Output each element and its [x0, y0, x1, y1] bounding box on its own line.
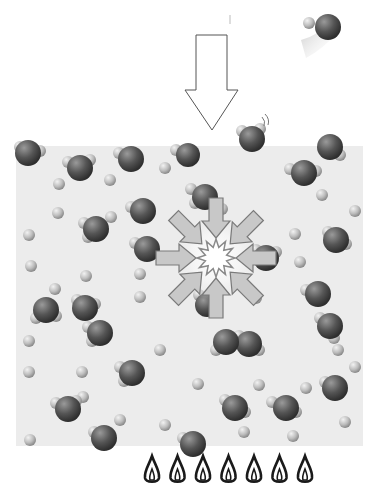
oxygen-atom — [83, 216, 109, 242]
hydrogen-atom — [24, 434, 36, 446]
hydrogen-molecule — [192, 378, 204, 390]
hydrogen-molecule — [289, 228, 301, 240]
hydrogen-molecule — [154, 344, 166, 356]
hydrogen-atom — [192, 378, 204, 390]
hydrogen-atom — [159, 162, 171, 174]
bubble-core — [207, 249, 225, 267]
oxygen-atom — [213, 329, 239, 355]
hydrogen-molecule — [49, 283, 61, 295]
hydrogen-molecule — [23, 335, 35, 347]
oxygen-atom — [91, 425, 117, 451]
hydrogen-atom — [25, 260, 37, 272]
oxygen-atom — [55, 396, 81, 422]
pressure-arrow-icon — [185, 35, 238, 130]
oxygen-atom — [317, 313, 343, 339]
escaping-molecule — [301, 14, 341, 58]
hydrogen-molecule — [253, 379, 265, 391]
hydrogen-atom — [300, 382, 312, 394]
flame-icon — [170, 456, 184, 482]
hydrogen-atom — [349, 205, 361, 217]
flame-icon — [145, 456, 159, 482]
hydrogen-atom — [134, 291, 146, 303]
flame-icon — [247, 456, 261, 482]
hydrogen-atom — [104, 174, 116, 186]
oxygen-atom — [118, 146, 144, 172]
hydrogen-atom — [23, 335, 35, 347]
burner-flames — [145, 456, 312, 482]
hydrogen-molecule — [159, 162, 171, 174]
hydrogen-atom — [339, 416, 351, 428]
hydrogen-atom — [53, 178, 65, 190]
oxygen-atom — [176, 143, 200, 167]
hydrogen-atom — [49, 283, 61, 295]
hydrogen-molecule — [53, 178, 65, 190]
flame-icon — [272, 456, 286, 482]
oxygen-atom — [322, 375, 348, 401]
hydrogen-molecule — [52, 207, 64, 219]
hydrogen-molecule — [23, 366, 35, 378]
oxygen-atom — [119, 360, 145, 386]
hydrogen-molecule — [114, 414, 126, 426]
oxygen-atom — [130, 198, 156, 224]
oxygen-atom — [87, 320, 113, 346]
hydrogen-atom — [114, 414, 126, 426]
oxygen-atom — [305, 281, 331, 307]
flame-icon — [196, 456, 210, 482]
hydrogen-atom — [253, 379, 265, 391]
hydrogen-atom — [289, 228, 301, 240]
hydrogen-atom — [23, 366, 35, 378]
hydrogen-molecule — [80, 270, 92, 282]
hydrogen-molecule — [159, 419, 171, 431]
hydrogen-molecule — [287, 430, 299, 442]
hydrogen-atom — [76, 366, 88, 378]
flame-icon — [298, 456, 312, 482]
water-molecule — [88, 425, 117, 451]
hydrogen-molecule — [134, 291, 146, 303]
hydrogen-molecule — [238, 426, 250, 438]
oxygen-atom — [33, 297, 59, 323]
oxygen-atom — [180, 431, 206, 457]
hydrogen-molecule — [23, 229, 35, 241]
hydrogen-atom — [349, 361, 361, 373]
hydrogen-atom — [52, 207, 64, 219]
hydrogen-molecule — [76, 366, 88, 378]
hydrogen-molecule — [134, 268, 146, 280]
oxygen-atom — [67, 155, 93, 181]
flame-icon — [221, 456, 235, 482]
hydrogen-atom — [332, 344, 344, 356]
oxygen-atom — [236, 331, 262, 357]
hydrogen-atom — [105, 211, 117, 223]
water-molecule — [177, 431, 206, 457]
hydrogen-atom — [80, 270, 92, 282]
hydrogen-atom — [134, 268, 146, 280]
hydrogen-molecule — [300, 382, 312, 394]
cavitation-diagram — [0, 0, 383, 485]
hydrogen-atom — [287, 430, 299, 442]
hydrogen-molecule — [349, 361, 361, 373]
hydrogen-atom — [294, 256, 306, 268]
oxygen-atom — [15, 140, 41, 166]
oxygen-atom — [239, 126, 265, 152]
hydrogen-molecule — [104, 174, 116, 186]
hydrogen-atom — [154, 344, 166, 356]
oxygen-atom — [291, 160, 317, 186]
oxygen-atom — [273, 395, 299, 421]
hydrogen-molecule — [294, 256, 306, 268]
hydrogen-molecule — [24, 434, 36, 446]
hydrogen-molecule — [332, 344, 344, 356]
oxygen-atom — [323, 227, 349, 253]
oxygen-atom — [317, 134, 343, 160]
hydrogen-molecule — [25, 260, 37, 272]
hydrogen-atom — [159, 419, 171, 431]
hydrogen-atom — [23, 229, 35, 241]
hydrogen-molecule — [339, 416, 351, 428]
oxygen-atom — [72, 295, 98, 321]
hydrogen-molecule — [349, 205, 361, 217]
hydrogen-molecule — [316, 189, 328, 201]
hydrogen-atom — [316, 189, 328, 201]
hydrogen-atom — [238, 426, 250, 438]
oxygen-atom — [222, 395, 248, 421]
hydrogen-molecule — [105, 211, 117, 223]
